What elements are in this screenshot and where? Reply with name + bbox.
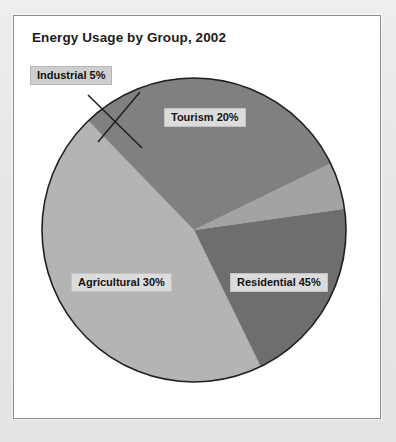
pie-label-residential: Residential 45% <box>230 273 328 292</box>
pie-chart-plot-area: Industrial 5% Tourism 20% Residential 45… <box>14 16 382 420</box>
chart-panel: Energy Usage by Group, 2002 Industrial 5… <box>13 15 381 419</box>
pie-label-agricultural: Agricultural 30% <box>71 273 172 292</box>
pie-label-tourism: Tourism 20% <box>164 108 246 127</box>
pie-label-industrial: Industrial 5% <box>30 66 112 85</box>
